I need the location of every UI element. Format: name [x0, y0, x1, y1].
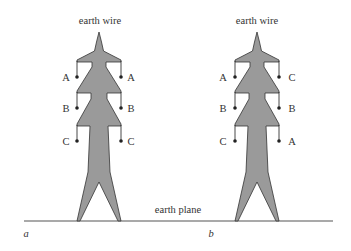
tower-a: earth wire A B C A B C a: [23, 15, 135, 239]
phase-label-a-right-3: C: [127, 136, 134, 147]
earth-plane-label: earth plane: [155, 204, 202, 215]
phase-label-b-right-2: B: [288, 103, 295, 114]
earth-wire-label-a: earth wire: [79, 15, 122, 26]
caption-b: b: [208, 228, 213, 239]
tower-b: earth wire A B C C B A b: [208, 15, 296, 239]
phase-label-b-left-1: A: [219, 72, 227, 83]
tower-a-shape: [75, 32, 123, 221]
phase-label-b-right-1: C: [288, 72, 295, 83]
phase-label-a-left-2: B: [62, 103, 69, 114]
phase-label-a-left-1: A: [62, 72, 70, 83]
caption-a: a: [23, 228, 28, 239]
phase-label-b-left-3: C: [219, 136, 226, 147]
phase-label-a-right-1: A: [127, 72, 135, 83]
phase-label-b-right-3: A: [288, 136, 296, 147]
phase-label-a-left-3: C: [62, 136, 69, 147]
tower-b-shape: [233, 32, 281, 221]
earth-wire-label-b: earth wire: [236, 15, 279, 26]
tower-diagram: earth plane earth wire A B C A B C a ear…: [0, 0, 351, 251]
phase-label-a-right-2: B: [127, 103, 134, 114]
phase-label-b-left-2: B: [219, 103, 226, 114]
